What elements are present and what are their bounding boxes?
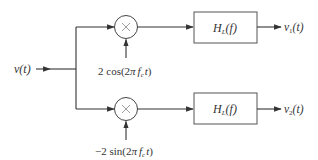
upper-carrier-label: 2 cos(2πfct) [98, 65, 152, 79]
lower-output-label: v2(t) [284, 103, 304, 117]
input-label: v(t) [14, 62, 31, 76]
upper-output-label: v1(t) [284, 21, 304, 35]
upper-multiplier [115, 16, 138, 39]
lower-branch: −2 sin(2πfct) HL(f) v2(t) [76, 93, 304, 159]
lower-multiplier [115, 98, 138, 121]
quadrature-demodulator-diagram: v(t) 2 cos(2πfct) HL(f) v1(t) −2 sin(2πf… [0, 0, 318, 160]
upper-branch: 2 cos(2πfct) HL(f) v1(t) [76, 12, 304, 79]
lower-carrier-label: −2 sin(2πfct) [95, 145, 153, 159]
